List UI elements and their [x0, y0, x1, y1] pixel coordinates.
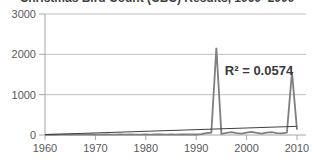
x-axis-tick-labels: 196019701980199020002010	[33, 142, 309, 154]
y-tick-label-2000: 2000	[12, 48, 36, 60]
y-tick-label-1000: 1000	[12, 89, 36, 101]
series-CBC-count	[45, 48, 297, 135]
data-series	[45, 48, 297, 135]
chart-figure: Christmas Bird Count (CBC) Results, 1960…	[0, 0, 314, 165]
y-tick-label-0: 0	[30, 129, 36, 141]
gridlines	[45, 14, 306, 95]
x-tick-label-2000: 2000	[234, 142, 258, 154]
x-tick-label-1960: 1960	[33, 142, 57, 154]
x-tick-label-2010: 2010	[285, 142, 309, 154]
r-squared-annotation: R² = 0.0574	[225, 63, 294, 78]
y-tick-label-3000: 3000	[12, 8, 36, 20]
x-tick-label-1980: 1980	[134, 142, 158, 154]
x-tick-label-1990: 1990	[184, 142, 208, 154]
x-tick-label-1970: 1970	[83, 142, 107, 154]
line-chart: 0100020003000 196019701980199020002010 R…	[0, 0, 314, 165]
y-axis-tick-labels: 0100020003000	[12, 8, 36, 141]
